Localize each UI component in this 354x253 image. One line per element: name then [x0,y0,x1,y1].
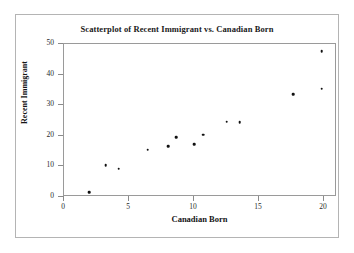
y-axis-title: Recent Immigrant [20,33,29,153]
data-point [146,148,149,151]
data-point [202,134,205,137]
x-axis-tick [128,196,129,201]
data-point [292,93,295,96]
data-point [105,164,108,167]
x-axis-tick [193,196,194,201]
data-point [320,88,323,91]
data-point [118,167,121,170]
x-axis-tick [323,196,324,201]
scatter-plot-area [63,43,336,196]
x-axis-tick [258,196,259,201]
x-axis-tick-label: 10 [178,202,208,211]
data-point [226,120,229,123]
x-axis-tick-label: 20 [308,202,338,211]
x-axis-tick-label: 15 [243,202,273,211]
data-point [239,121,242,124]
data-point [175,136,178,139]
x-axis-title: Canadian Born [63,214,336,224]
data-point [193,143,196,146]
figure-container: Scatterplot of Recent Immigrant vs. Cana… [0,0,354,253]
data-point [320,50,323,53]
x-axis-tick [63,196,64,201]
y-axis-tick-label: 0 [14,191,54,200]
data-point [88,191,91,194]
data-point [167,145,170,148]
x-axis-tick-label: 5 [113,202,143,211]
chart-title: Scatterplot of Recent Immigrant vs. Cana… [15,24,339,34]
y-axis-tick-label: 10 [14,160,54,169]
x-axis-tick-label: 0 [48,202,78,211]
